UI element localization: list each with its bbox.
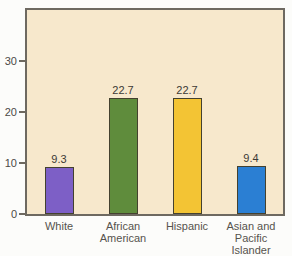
bar-white bbox=[45, 167, 74, 214]
x-axis-labels: WhiteAfrican AmericanHispanicAsian and P… bbox=[27, 220, 283, 256]
bar-column: 9.3 bbox=[27, 153, 91, 214]
bar-value-label: 22.7 bbox=[112, 84, 133, 96]
bar-column: 22.7 bbox=[91, 84, 155, 214]
bar-asian-and-pacific-islander bbox=[237, 166, 266, 214]
x-axis-category-label: Hispanic bbox=[155, 220, 219, 256]
bars-container: 9.322.722.79.4 bbox=[27, 10, 283, 214]
bar-column: 22.7 bbox=[155, 84, 219, 214]
bar-value-label: 22.7 bbox=[176, 84, 197, 96]
y-axis-tick-label: 0 bbox=[0, 208, 17, 221]
x-axis-category-label: Asian and Pacific Islander bbox=[219, 220, 283, 256]
bar-hispanic bbox=[173, 98, 202, 214]
bar-value-label: 9.4 bbox=[243, 152, 258, 164]
x-axis-category-label: White bbox=[27, 220, 91, 256]
x-axis-category-label: African American bbox=[91, 220, 155, 256]
y-axis-tick-label: 20 bbox=[0, 106, 17, 119]
bar-african-american bbox=[109, 98, 138, 214]
y-axis-tick bbox=[19, 111, 26, 113]
y-axis-tick bbox=[19, 162, 26, 164]
y-axis-tick bbox=[19, 213, 26, 215]
bar-value-label: 9.3 bbox=[51, 153, 66, 165]
y-axis-tick bbox=[19, 60, 26, 62]
bar-column: 9.4 bbox=[219, 152, 283, 214]
y-axis-tick-label: 30 bbox=[0, 55, 17, 68]
y-axis-tick-label: 10 bbox=[0, 157, 17, 170]
